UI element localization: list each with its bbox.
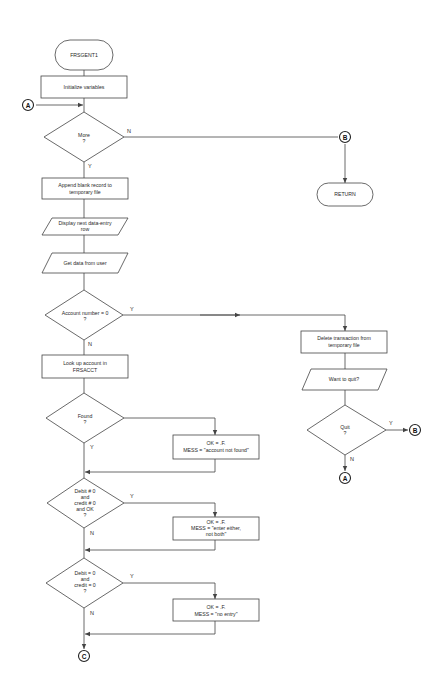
- decision-quit: Quit ?: [307, 405, 386, 455]
- flowchart-canvas: FRSGENT1 Initialize variables More ? App…: [0, 0, 443, 700]
- svg-text:?: ?: [84, 588, 87, 594]
- label-quit-yes: Y: [389, 420, 393, 426]
- svg-text:row: row: [81, 226, 90, 232]
- process-enter-either: OK = .F. MESS = "enter either, not both": [173, 517, 259, 540]
- terminal-start: FRSGENT1: [55, 40, 113, 70]
- svg-text:?: ?: [84, 316, 87, 322]
- decision-debit-credit-none: Debit = 0 and credit = 0 ?: [46, 558, 123, 608]
- process-lookup-account: Look up account in FRSACCT: [42, 355, 128, 378]
- svg-text:Look up account in: Look up account in: [63, 360, 107, 366]
- svg-text:Get data from user: Get data from user: [63, 260, 107, 266]
- svg-text:Initialize variables: Initialize variables: [64, 84, 105, 90]
- svg-text:C: C: [82, 653, 87, 660]
- label-both-yes: Y: [130, 493, 134, 499]
- connector-a-entry: A: [23, 100, 34, 111]
- process-account-not-found: OK = .F. MESS = "account not found": [173, 435, 259, 459]
- io-get-data: Get data from user: [42, 253, 128, 273]
- svg-text:?: ?: [84, 419, 87, 425]
- label-more-no: N: [127, 128, 131, 134]
- svg-text:RETURN: RETURN: [334, 191, 356, 197]
- decision-debit-credit-both: Debit # 0 and credit # 0 and OK ?: [47, 478, 124, 528]
- svg-text:MESS = "account not found": MESS = "account not found": [183, 447, 249, 453]
- svg-text:?: ?: [83, 138, 86, 144]
- decision-account-zero: Account number = 0 ?: [45, 290, 123, 340]
- process-no-entry: OK = .F. MESS = "no entry": [173, 599, 259, 621]
- label-acct-no: N: [88, 341, 92, 347]
- connector-b-more: B: [340, 132, 351, 143]
- svg-text:?: ?: [344, 430, 347, 436]
- label-none-yes: Y: [130, 573, 134, 579]
- svg-text:Append blank record to: Append blank record to: [58, 182, 112, 188]
- terminal-return: RETURN: [317, 183, 373, 206]
- svg-text:FRSGENT1: FRSGENT1: [70, 52, 98, 58]
- label-none-no: N: [90, 610, 94, 616]
- svg-text:OK = .F.: OK = .F.: [207, 604, 226, 610]
- io-display-row: Display next data-entry row: [42, 218, 128, 235]
- label-quit-no: N: [350, 456, 354, 462]
- svg-text:?: ?: [84, 512, 87, 518]
- svg-text:Delete transaction from: Delete transaction from: [317, 335, 371, 341]
- svg-text:A: A: [343, 475, 348, 482]
- connector-b-quit: B: [410, 425, 421, 436]
- svg-text:FRSACCT: FRSACCT: [73, 367, 98, 373]
- label-more-yes: Y: [88, 163, 92, 169]
- decision-more: More ?: [44, 112, 124, 162]
- svg-text:not both": not both": [206, 531, 227, 537]
- io-want-to-quit: Want to quit?: [302, 369, 387, 390]
- connector-a-quit: A: [340, 473, 351, 484]
- svg-text:B: B: [343, 134, 348, 141]
- svg-text:Want to quit?: Want to quit?: [329, 376, 359, 382]
- svg-text:temporary file: temporary file: [69, 189, 101, 195]
- svg-text:MESS = "no entry": MESS = "no entry": [194, 611, 237, 617]
- svg-text:A: A: [26, 102, 31, 109]
- connector-c-exit: C: [79, 651, 90, 662]
- decision-found: Found ?: [46, 393, 124, 443]
- label-found-yes: Y: [90, 444, 94, 450]
- svg-text:B: B: [413, 427, 418, 434]
- svg-text:temporary file: temporary file: [328, 342, 360, 348]
- process-delete-transaction: Delete transaction from temporary file: [301, 331, 387, 353]
- label-both-no: N: [90, 530, 94, 536]
- label-acct-yes: Y: [130, 306, 134, 312]
- process-append-record: Append blank record to temporary file: [42, 178, 128, 199]
- svg-text:OK = .F.: OK = .F.: [207, 440, 226, 446]
- process-initialize: Initialize variables: [41, 76, 127, 98]
